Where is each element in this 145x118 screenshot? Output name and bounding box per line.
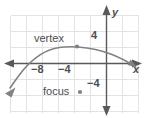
x-axis (4, 60, 142, 68)
coordinate-plane (0, 0, 145, 118)
parabola-curve (5, 47, 137, 98)
vertex-label: vertex (34, 33, 64, 44)
focus-label: focus (43, 86, 69, 97)
x-tick-label-neg8: −8 (31, 64, 44, 75)
x-axis-label: x (133, 64, 139, 75)
vertex-point (75, 44, 79, 48)
parabola-figure: vertex focus −8 −4 4 −4 x y (0, 0, 145, 118)
y-tick-label-neg4: −4 (87, 78, 100, 89)
focus-point (78, 90, 82, 94)
y-tick-label-pos4: 4 (91, 30, 97, 41)
y-axis (103, 5, 111, 116)
y-axis-label: y (112, 7, 118, 18)
x-tick-label-neg4: −4 (58, 64, 71, 75)
